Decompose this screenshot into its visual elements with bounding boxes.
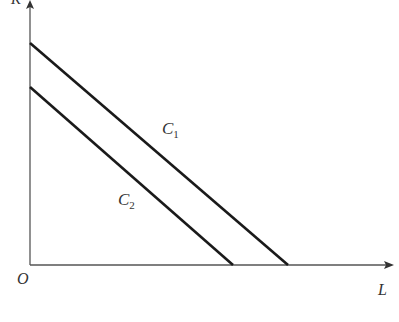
curve-c2 xyxy=(30,87,233,265)
curve-c1 xyxy=(30,43,288,265)
curve-c1-label-main: C xyxy=(162,119,173,138)
curve-c2-label-sub: 2 xyxy=(129,199,135,211)
origin-label: O xyxy=(17,271,29,287)
curve-c1-label: C1 xyxy=(162,120,179,140)
figure-caption xyxy=(110,306,290,318)
curve-c1-label-sub: 1 xyxy=(173,128,179,140)
isocost-diagram xyxy=(0,0,399,322)
x-axis-label: L xyxy=(378,282,387,298)
y-axis-label: K xyxy=(11,0,21,7)
curve-c2-label-main: C xyxy=(118,190,129,209)
curve-c2-label: C2 xyxy=(118,191,135,211)
